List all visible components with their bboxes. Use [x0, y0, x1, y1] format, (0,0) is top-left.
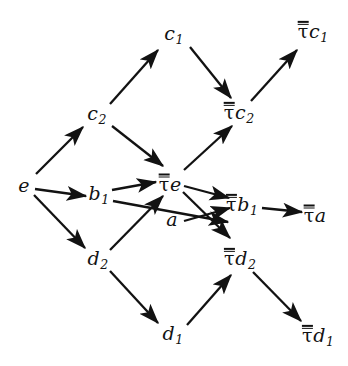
node-base-letter: c	[164, 22, 175, 44]
tau-bar-symbol: τ	[302, 324, 313, 345]
node-base-letter: c	[309, 20, 320, 42]
edge-e-to-b1	[35, 189, 86, 196]
tau-bar-symbol: τ	[304, 204, 315, 225]
edge-c2-to-tau-e	[112, 126, 163, 166]
node-tau-d1: τd1	[302, 324, 334, 348]
tau-bar-symbol: τ	[298, 20, 309, 41]
tau-bar-symbol: τ	[226, 193, 237, 214]
diagram-canvas: c1τc1c2τc2eb1τeaτb1τad2τd2d1τd1	[0, 0, 348, 366]
node-base-letter: d	[313, 324, 325, 346]
node-subscript: 1	[175, 332, 183, 347]
edge-c1-to-tau-c2	[190, 47, 231, 98]
node-base-letter: b	[89, 182, 101, 204]
edge-tau-b1-to-tau-a	[262, 208, 302, 212]
edge-tau-c2-to-tau-c1	[251, 50, 297, 101]
node-base-letter: c	[235, 101, 246, 123]
node-subscript: 2	[248, 257, 256, 272]
node-tau-e: τe	[159, 173, 182, 194]
node-e: e	[18, 176, 29, 195]
node-base-letter: d	[88, 247, 100, 269]
node-base-letter: e	[170, 173, 181, 195]
edge-b1-to-tau-e	[112, 182, 156, 190]
node-d2: d2	[88, 249, 109, 271]
node-subscript: 2	[100, 257, 108, 272]
node-c1: c1	[164, 24, 183, 46]
edge-c2-to-c1	[110, 50, 158, 104]
tau-bar-symbol: τ	[224, 101, 235, 122]
node-d1: d1	[163, 324, 184, 346]
edge-e-to-d2	[34, 195, 85, 248]
node-subscript: 1	[326, 334, 334, 349]
node-base-letter: b	[237, 193, 249, 215]
node-base-letter: a	[166, 208, 178, 230]
node-b1: b1	[89, 184, 110, 206]
node-base-letter: c	[87, 102, 98, 124]
node-tau-c2: τc2	[224, 101, 255, 125]
edge-tau-e-to-tau-b1	[184, 186, 229, 198]
node-base-letter: d	[235, 247, 247, 269]
tau-bar-symbol: τ	[159, 173, 170, 194]
node-base-letter: e	[18, 174, 29, 196]
tau-bar-symbol: τ	[224, 247, 235, 268]
node-subscript: 2	[99, 112, 107, 127]
node-tau-c1: τc1	[298, 20, 329, 44]
node-subscript: 1	[101, 192, 109, 207]
node-a: a	[166, 210, 178, 229]
edge-d1-to-tau-d2	[187, 275, 231, 325]
node-tau-d2: τd2	[224, 247, 256, 271]
node-c2: c2	[87, 104, 106, 126]
edge-tau-e-to-tau-c2	[184, 126, 232, 170]
edge-e-to-c2	[36, 127, 83, 174]
node-subscript: 1	[320, 30, 328, 45]
node-tau-a: τa	[304, 204, 327, 225]
node-subscript: 1	[176, 32, 184, 47]
node-subscript: 2	[246, 111, 254, 126]
node-tau-b1: τb1	[226, 193, 258, 217]
node-subscript: 1	[250, 203, 258, 218]
edge-d2-to-d1	[110, 271, 158, 323]
edge-tau-d2-to-tau-d1	[253, 272, 301, 321]
node-base-letter: a	[315, 204, 327, 226]
node-base-letter: d	[163, 322, 175, 344]
edge-d2-to-tau-e	[110, 196, 163, 250]
